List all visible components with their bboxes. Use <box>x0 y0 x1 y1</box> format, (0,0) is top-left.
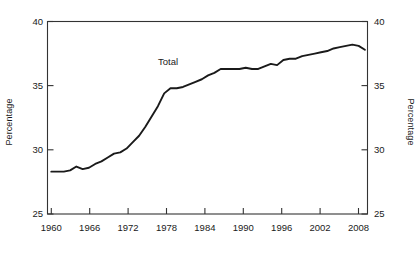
y-tick-label-right-30: 30 <box>374 144 398 155</box>
y-tick-label-right-35: 35 <box>374 80 398 91</box>
x-tick-label-2008: 2008 <box>342 222 376 233</box>
y-tick-label-left-30: 30 <box>19 144 43 155</box>
y-axis-title-right: Percentage <box>406 92 416 152</box>
x-tick-label-1996: 1996 <box>265 222 299 233</box>
y-tick-label-right-40: 40 <box>374 16 398 27</box>
plot-frame <box>48 22 368 215</box>
x-tick-label-1960: 1960 <box>34 222 68 233</box>
chart-figure: 40 35 30 25 40 35 30 25 1960 1966 1972 1… <box>0 0 418 256</box>
y-tick-label-left-25: 25 <box>19 208 43 219</box>
x-tick-label-1984: 1984 <box>188 222 222 233</box>
y-axis-title-left: Percentage <box>4 92 14 152</box>
y-tick-label-left-35: 35 <box>19 80 43 91</box>
x-tick-label-1972: 1972 <box>111 222 145 233</box>
y-tick-label-left-40: 40 <box>19 16 43 27</box>
series-annotation-total: Total <box>158 56 178 67</box>
x-tick-label-2002: 2002 <box>303 222 337 233</box>
chart-canvas <box>0 0 418 256</box>
x-tick-label-1978: 1978 <box>150 222 184 233</box>
x-axis-ticks <box>51 208 358 214</box>
y-axis-ticks-left <box>48 22 54 215</box>
series-line-total <box>51 45 365 172</box>
x-tick-label-1990: 1990 <box>226 222 260 233</box>
x-tick-label-1966: 1966 <box>73 222 107 233</box>
y-tick-label-right-25: 25 <box>374 208 398 219</box>
